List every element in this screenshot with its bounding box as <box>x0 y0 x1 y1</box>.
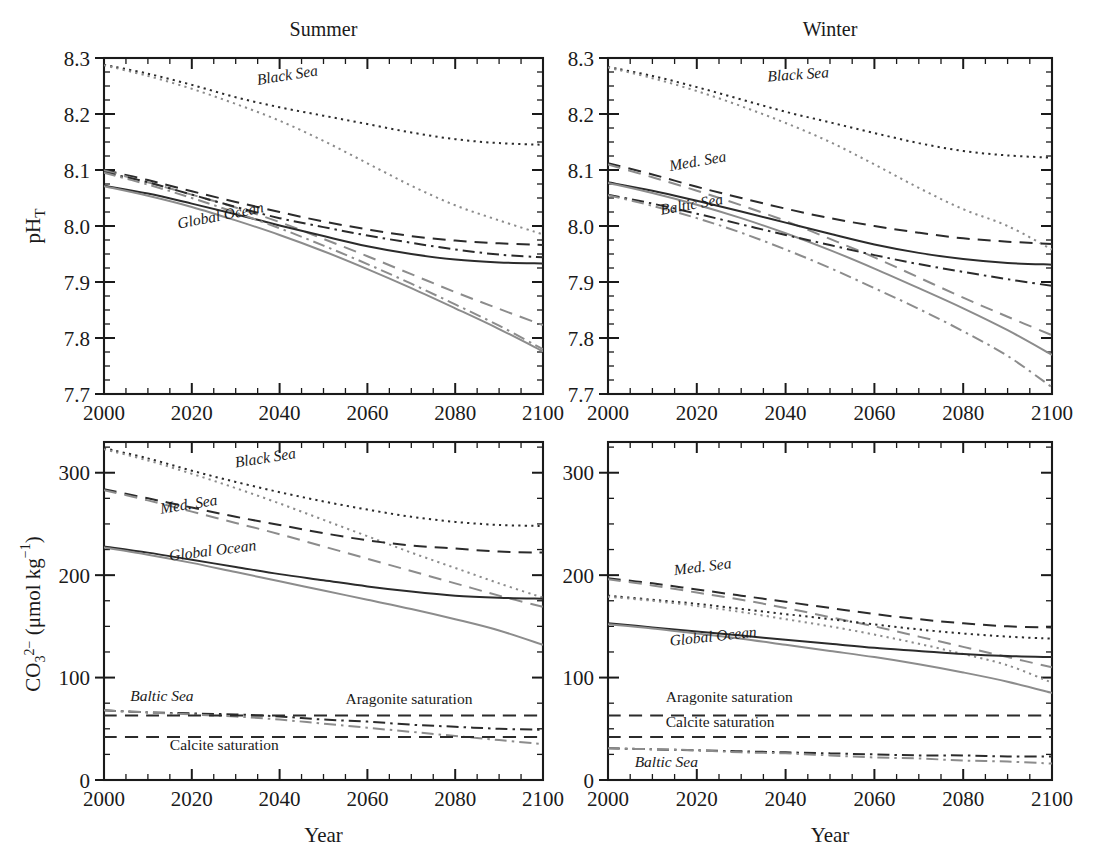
yaxis-title-co3: CO32− (μmol kg−1) <box>18 536 48 691</box>
xtick-label-summer-ph-0: 2000 <box>83 401 125 425</box>
ytick-label-winter-ph-1: 7.8 <box>568 327 594 351</box>
ytick-label-winter-co3-2: 200 <box>563 564 595 588</box>
xtick-label-winter-co3-2: 2040 <box>765 787 807 811</box>
annotation-winter-ph-1: Med. Sea <box>667 147 728 174</box>
xtick-label-summer-ph-4: 2080 <box>434 401 476 425</box>
xtick-label-summer-co3-0: 2000 <box>83 787 125 811</box>
curve-winter-co3-0 <box>608 578 1052 627</box>
curve-summer-co3-1 <box>104 449 543 598</box>
xtick-label-summer-co3-3: 2060 <box>346 787 388 811</box>
annotation-summer-co3-3: Baltic Sea <box>130 687 194 704</box>
xtick-label-summer-co3-2: 2040 <box>259 787 301 811</box>
xtick-label-summer-ph-3: 2060 <box>346 401 388 425</box>
ytick-label-summer-ph-2: 7.9 <box>64 271 90 295</box>
ytick-label-summer-ph-6: 8.3 <box>64 47 90 71</box>
annotation-summer-co3-4: Aragonite saturation <box>345 690 472 707</box>
svg-text:pHT: pHT <box>21 209 48 244</box>
xtick-label-summer-co3-5: 2100 <box>522 787 564 811</box>
panel-title-winter-ph: Winter <box>803 18 858 40</box>
xtick-label-winter-co3-1: 2020 <box>676 787 718 811</box>
ytick-label-summer-ph-3: 8.0 <box>64 215 90 239</box>
panel-title-summer-ph: Summer <box>290 18 358 40</box>
xtick-label-summer-ph-1: 2020 <box>171 401 213 425</box>
xtick-label-winter-ph-1: 2020 <box>676 401 718 425</box>
svg-text:CO32− (μmol kg−1): CO32− (μmol kg−1) <box>18 536 48 691</box>
curve-summer-ph-0 <box>104 65 543 145</box>
curve-summer-ph-1 <box>104 65 543 234</box>
xaxis-title-winter-co3: Year <box>811 823 850 847</box>
xtick-label-summer-ph-2: 2040 <box>259 401 301 425</box>
plot-frame-winter-ph <box>608 58 1052 394</box>
xtick-label-winter-ph-5: 2100 <box>1031 401 1073 425</box>
ytick-label-summer-co3-3: 300 <box>59 461 91 485</box>
curve-winter-ph-0 <box>608 67 1052 158</box>
plot-frame-summer-co3 <box>104 442 543 780</box>
ytick-label-summer-co3-1: 100 <box>59 666 91 690</box>
ytick-label-summer-co3-2: 200 <box>59 564 91 588</box>
yaxis-title-ph: pHT <box>21 209 48 244</box>
curve-summer-ph-2 <box>104 170 543 245</box>
xtick-label-winter-co3-3: 2060 <box>853 787 895 811</box>
ytick-label-winter-ph-6: 8.3 <box>568 47 594 71</box>
annotation-winter-co3-1: Global Ocean <box>669 623 758 649</box>
ytick-label-summer-ph-1: 7.8 <box>64 327 90 351</box>
xtick-label-winter-ph-0: 2000 <box>587 401 629 425</box>
plot-frame-summer-ph <box>104 58 543 394</box>
annotation-winter-co3-2: Aragonite saturation <box>666 688 793 705</box>
curve-winter-ph-7 <box>608 195 1052 387</box>
ytick-label-winter-ph-4: 8.1 <box>568 159 594 183</box>
ytick-label-winter-co3-3: 300 <box>563 461 595 485</box>
xtick-label-winter-ph-2: 2040 <box>765 401 807 425</box>
curve-winter-ph-4 <box>608 182 1052 264</box>
xtick-label-summer-co3-1: 2020 <box>171 787 213 811</box>
annotation-winter-ph-0: Black Sea <box>767 63 830 84</box>
curve-winter-co3-1 <box>608 579 1052 667</box>
four-panel-chart: 7.77.87.98.08.18.28.32000202020402060208… <box>0 0 1101 864</box>
annotation-summer-co3-0: Black Sea <box>234 444 298 470</box>
ytick-label-winter-co3-1: 100 <box>563 666 595 690</box>
annotation-winter-co3-4: Baltic Sea <box>635 753 699 770</box>
ytick-label-winter-ph-3: 8.0 <box>568 215 594 239</box>
xaxis-title-summer-co3: Year <box>304 823 343 847</box>
ytick-label-summer-ph-5: 8.2 <box>64 103 90 127</box>
ytick-label-summer-ph-4: 8.1 <box>64 159 90 183</box>
xtick-label-summer-co3-4: 2080 <box>434 787 476 811</box>
annotation-summer-ph-0: Black Sea <box>255 61 319 87</box>
annotation-summer-co3-1: Med. Sea <box>158 491 219 517</box>
annotation-winter-co3-0: Med. Sea <box>672 554 733 578</box>
annotation-summer-co3-5: Calcite saturation <box>170 736 279 753</box>
xtick-label-winter-co3-4: 2080 <box>942 787 984 811</box>
annotation-summer-co3-2: Global Ocean <box>168 536 257 564</box>
xtick-label-summer-ph-5: 2100 <box>522 401 564 425</box>
figure-container: 7.77.87.98.08.18.28.32000202020402060208… <box>0 0 1101 864</box>
ytick-label-winter-ph-5: 8.2 <box>568 103 594 127</box>
ytick-label-winter-ph-2: 7.9 <box>568 271 594 295</box>
xtick-label-winter-ph-3: 2060 <box>853 401 895 425</box>
curve-summer-co3-6 <box>104 710 543 729</box>
xtick-label-winter-ph-4: 2080 <box>942 401 984 425</box>
curve-summer-ph-5 <box>104 186 543 351</box>
xtick-label-winter-co3-0: 2000 <box>587 787 629 811</box>
annotation-winter-co3-3: Calcite saturation <box>666 713 775 730</box>
xtick-label-winter-co3-5: 2100 <box>1031 787 1073 811</box>
curve-summer-ph-3 <box>104 171 543 326</box>
